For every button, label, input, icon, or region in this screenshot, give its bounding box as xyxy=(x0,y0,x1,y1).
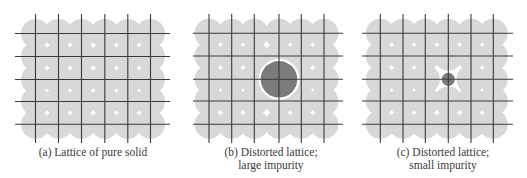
caption-c-line-1: (c) Distorted lattice; xyxy=(363,146,523,159)
caption-a-line-1: (a) Lattice of pure solid xyxy=(13,146,173,159)
caption-b-line-1: (b) Distorted lattice; xyxy=(191,146,351,159)
panel-a-lattice xyxy=(15,14,170,143)
panel-b-lattice xyxy=(193,14,343,143)
caption-panel-a: (a) Lattice of pure solid xyxy=(13,146,173,159)
caption-b-line-2: large impurity xyxy=(191,159,351,172)
panel-c-lattice xyxy=(362,14,513,143)
caption-panel-b: (b) Distorted lattice; large impurity xyxy=(191,146,351,172)
caption-c-line-2: small impurity xyxy=(363,159,523,172)
atoms-a xyxy=(21,19,165,139)
caption-panel-c: (c) Distorted lattice; small impurity xyxy=(363,146,523,172)
